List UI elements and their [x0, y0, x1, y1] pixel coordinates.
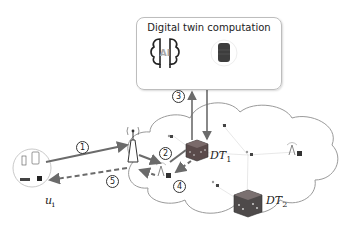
- iot-node-icon: [223, 124, 226, 127]
- edge-cloud: [128, 103, 338, 213]
- router-icon: [20, 178, 30, 181]
- computation-box-title: Digital twin computation: [137, 22, 281, 33]
- user-devices-group: [13, 149, 51, 187]
- step-3-label: 3: [172, 90, 185, 103]
- step-4-label: 4: [173, 180, 186, 193]
- edge-server-icon: [297, 151, 302, 156]
- phone-icon: [22, 156, 26, 165]
- tablet-icon: [32, 152, 39, 164]
- user-label: ui: [45, 194, 55, 209]
- dt1-label: DT1: [210, 149, 231, 164]
- step-2-label: 2: [159, 147, 172, 160]
- device-icon: [37, 176, 42, 181]
- digital-twin-1-cube: [186, 140, 208, 161]
- dt2-label: DT2: [266, 194, 287, 209]
- step-5-label: 5: [106, 175, 119, 188]
- step-1-label: 1: [76, 141, 89, 154]
- digital-twin-2-cube: [234, 190, 262, 217]
- edge-server-icon: [166, 173, 171, 178]
- digital-twin-computation-box: Digital twin computation: [136, 17, 282, 90]
